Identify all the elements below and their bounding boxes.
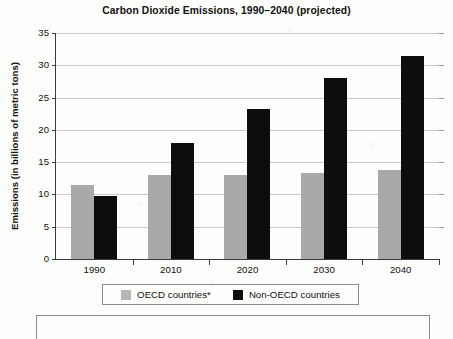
x-tick-mark xyxy=(209,259,210,265)
bar-group xyxy=(362,33,439,259)
x-tick-label: 2030 xyxy=(294,264,354,275)
bar-non-oecd xyxy=(247,109,270,259)
y-tick-label: 0 xyxy=(9,254,49,264)
bar-oecd xyxy=(378,170,401,259)
bar-group xyxy=(56,33,133,259)
legend-entry-oecd: OECD countries* xyxy=(121,289,211,300)
x-tick-label: 1990 xyxy=(64,264,124,275)
black-swatch-icon xyxy=(233,290,243,300)
legend-entry-non-oecd: Non-OECD countries xyxy=(233,289,340,300)
x-tick-mark xyxy=(439,259,440,265)
y-tick-label: 15 xyxy=(9,157,49,167)
x-tick-mark xyxy=(362,259,363,265)
x-tick-label: 2010 xyxy=(141,264,201,275)
plot-area: Emissions (in billions of metric tons) 0… xyxy=(55,33,439,260)
y-tick-mark xyxy=(52,259,56,260)
bar-group xyxy=(209,33,286,259)
y-axis-title: Emissions (in billions of metric tons) xyxy=(9,62,20,230)
bar-non-oecd xyxy=(324,78,347,259)
legend-label-oecd: OECD countries* xyxy=(137,289,211,300)
bar-oecd xyxy=(224,175,247,259)
y-tick-label: 20 xyxy=(9,125,49,135)
x-tick-mark xyxy=(133,259,134,265)
bar-oecd xyxy=(71,185,94,259)
y-tick-mark-right xyxy=(439,194,444,195)
x-tick-label: 2040 xyxy=(371,264,431,275)
y-tick-mark-right xyxy=(439,130,444,131)
bar-non-oecd xyxy=(94,196,117,259)
bar-non-oecd xyxy=(171,143,194,259)
chart-legend: OECD countries* Non-OECD countries xyxy=(102,284,359,305)
chart-title: Carbon Dioxide Emissions, 1990–2040 (pro… xyxy=(0,5,453,16)
x-tick-mark xyxy=(286,259,287,265)
y-tick-mark-right xyxy=(439,98,444,99)
gray-swatch-icon xyxy=(121,290,131,300)
y-tick-label: 25 xyxy=(9,93,49,103)
y-tick-mark-right xyxy=(439,33,444,34)
y-tick-label: 5 xyxy=(9,222,49,232)
bar-group xyxy=(286,33,363,259)
y-tick-label: 35 xyxy=(9,28,49,38)
y-tick-label: 30 xyxy=(9,60,49,70)
bar-oecd xyxy=(301,173,324,259)
y-tick-label: 10 xyxy=(9,189,49,199)
y-tick-mark-right xyxy=(439,227,444,228)
footnote-box xyxy=(36,315,430,339)
bar-group xyxy=(133,33,210,259)
bar-non-oecd xyxy=(401,56,424,259)
bars-layer xyxy=(56,33,439,259)
x-tick-label: 2020 xyxy=(218,264,278,275)
bar-oecd xyxy=(148,175,171,259)
y-tick-mark-right xyxy=(439,162,444,163)
y-tick-mark-right xyxy=(439,65,444,66)
legend-label-non-oecd: Non-OECD countries xyxy=(249,289,340,300)
